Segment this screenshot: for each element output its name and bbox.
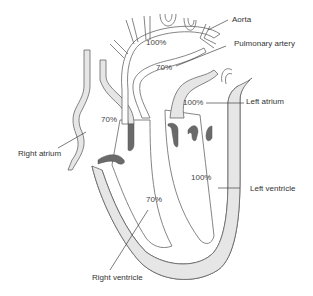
saturation-pulmonary-artery: 70% — [156, 64, 172, 72]
pulmonary-valve — [128, 124, 134, 151]
right-atrium-vessel — [68, 50, 90, 170]
saturation-right-atrium: 70% — [101, 116, 117, 124]
left-atrium-vessel — [170, 70, 218, 118]
label-left-atrium: Left atrium — [246, 98, 284, 106]
saturation-left-atrium: 100% — [183, 99, 203, 107]
mitral-valve-right — [206, 126, 212, 141]
saturation-right-ventricle: 70% — [146, 196, 162, 204]
label-right-ventricle: Right ventricle — [92, 274, 143, 282]
label-aorta: Aorta — [232, 16, 251, 24]
label-right-atrium: Right atrium — [18, 150, 61, 158]
saturation-left-ventricle: 100% — [191, 174, 211, 182]
label-pulmonary-artery: Pulmonary artery — [234, 40, 295, 48]
saturation-aorta: 100% — [146, 39, 166, 47]
label-left-ventricle: Left ventricle — [250, 185, 295, 193]
